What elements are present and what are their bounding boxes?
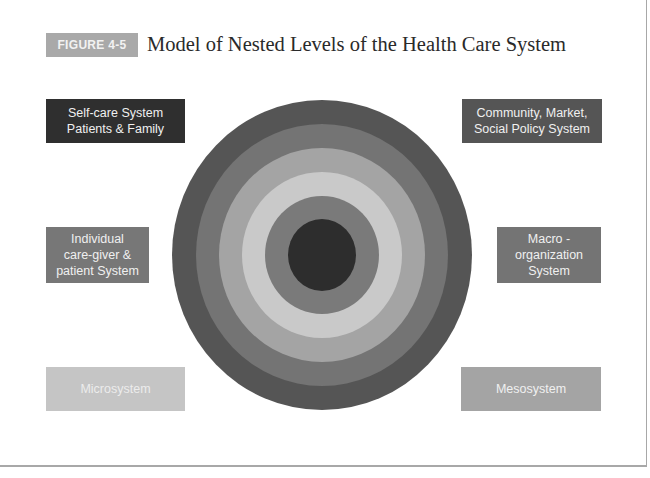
legend-box-macro: Macro - organization System: [497, 227, 601, 283]
legend-box-self-care: Self-care System Patients & Family: [46, 99, 185, 143]
legend-box-individual: Individual care-giver & patient System: [46, 227, 149, 283]
legend-label-macro: Macro - organization System: [515, 231, 583, 279]
legend-box-microsystem: Microsystem: [46, 367, 185, 411]
ring-self-care-core: [288, 219, 356, 291]
legend-label-self-care: Self-care System Patients & Family: [67, 105, 164, 137]
legend-label-microsystem: Microsystem: [80, 381, 150, 397]
legend-box-mesosystem: Mesosystem: [461, 367, 601, 411]
legend-label-mesosystem: Mesosystem: [496, 381, 566, 397]
legend-label-individual: Individual care-giver & patient System: [56, 231, 139, 279]
legend-label-community: Community, Market, Social Policy System: [474, 105, 590, 137]
legend-box-community: Community, Market, Social Policy System: [462, 99, 602, 143]
